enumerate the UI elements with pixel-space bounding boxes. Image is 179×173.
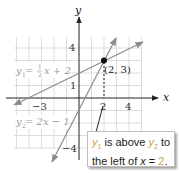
svg-text:y: y: [15, 65, 22, 76]
svg-text:=: =: [25, 65, 33, 76]
tick-label-4y: 4: [69, 42, 75, 53]
callout-text-line2a: the left of: [92, 155, 140, 167]
callout-box: y1 is above y2 to the left of x = 2.: [87, 131, 175, 167]
tick-label-1y: 1: [70, 80, 76, 91]
tick-label-2: 2: [100, 101, 106, 112]
intersection-point: [101, 58, 107, 64]
svg-text:1: 1: [38, 63, 42, 70]
svg-text:x + 2: x + 2: [44, 65, 71, 76]
equation-y2: y 2 = 2x − 1: [15, 115, 70, 129]
point-label: (2, 3): [104, 64, 131, 75]
callout-period: .: [164, 155, 167, 167]
svg-text:2: 2: [38, 71, 42, 78]
tick-label-neg4y: −4: [62, 143, 77, 154]
callout-text-part2: to: [158, 136, 170, 148]
svg-text:= 2x − 1: = 2x − 1: [25, 116, 70, 127]
tick-label-4x: 4: [125, 101, 131, 112]
y-axis-label: y: [74, 4, 82, 17]
callout-text-part1: is above: [101, 136, 148, 148]
tick-label-neg3: −3: [32, 101, 47, 112]
svg-text:y: y: [15, 116, 22, 127]
x-axis-label: x: [163, 91, 170, 104]
callout-line-2: the left of x = 2.: [92, 154, 174, 168]
callout-line-1: y1 is above y2 to: [92, 135, 174, 154]
callout-eq: =: [146, 155, 159, 167]
equation-y1: y 1 = 1 2 x + 2: [15, 62, 71, 78]
